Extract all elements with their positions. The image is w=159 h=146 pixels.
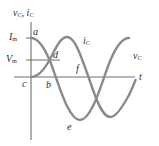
y-axis-label-comma: , xyxy=(22,7,25,18)
x-axis-label: t xyxy=(139,72,142,82)
point-label-d: d xyxy=(53,50,58,60)
point-label-f: f xyxy=(76,64,79,74)
current-amplitude-label: Im xyxy=(9,32,17,43)
point-label-c: c xyxy=(22,79,26,89)
vc-curve-label-subscript: C xyxy=(137,54,141,61)
vc-curve-label: vC xyxy=(133,51,142,62)
y-axis-label-i-sub: C xyxy=(29,11,33,18)
waveform-figure: vC, iC t Im Vm iC vC a b c d e f xyxy=(0,0,159,146)
ic-curve-label: iC xyxy=(83,36,90,47)
voltage-amplitude-label: Vm xyxy=(6,54,17,65)
ic-curve-label-subscript: C xyxy=(86,39,90,46)
voltage-amplitude-subscript: m xyxy=(12,57,17,64)
current-amplitude-subscript: m xyxy=(12,35,17,42)
y-axis-label: vC, iC xyxy=(13,8,34,19)
point-label-e: e xyxy=(67,122,71,132)
point-label-a: a xyxy=(33,27,38,37)
point-label-b: b xyxy=(46,80,51,90)
waveform-plot xyxy=(0,0,159,146)
